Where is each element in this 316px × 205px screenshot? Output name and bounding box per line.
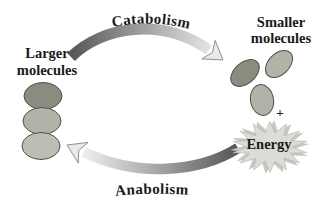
metabolism-diagram: Catabolism Anabolism Larger molecules Sm… bbox=[0, 0, 316, 205]
small-molecule-upper bbox=[260, 45, 297, 82]
smaller-molecules-label-line1: Smaller bbox=[257, 14, 306, 30]
larger-molecules-label-line2: molecules bbox=[17, 62, 78, 78]
smaller-molecules-label-line2: molecules bbox=[251, 30, 312, 46]
larger-molecules-group bbox=[22, 83, 62, 160]
large-molecule-light bbox=[22, 133, 60, 160]
anabolism-label: Anabolism bbox=[115, 181, 190, 199]
larger-molecules-label-line1: Larger bbox=[25, 45, 69, 61]
anabolism-arrow-band bbox=[84, 148, 238, 169]
smaller-molecules-group bbox=[226, 45, 298, 117]
large-molecule-dark bbox=[24, 83, 62, 110]
small-molecule-lower bbox=[248, 83, 276, 118]
plus-sign: + bbox=[276, 105, 283, 120]
catabolism-arrow-band bbox=[71, 29, 209, 57]
energy-label: Energy bbox=[246, 136, 292, 152]
metabolism-diagram-svg: Catabolism Anabolism Larger molecules Sm… bbox=[0, 0, 316, 205]
anabolism-label-text: Anabolism bbox=[115, 181, 190, 199]
large-molecule-medium bbox=[23, 108, 61, 135]
